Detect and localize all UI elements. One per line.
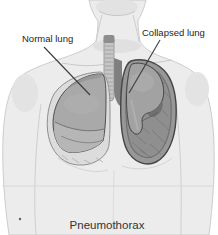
normal-lung-highlight	[64, 94, 100, 114]
deltoid-shading-left	[12, 74, 38, 112]
pneumothorax-figure: Normal lung Collapsed lung Pneumothorax	[0, 0, 218, 235]
collapsed-lung-highlight	[130, 72, 154, 92]
pneumothorax-illustration: Normal lung Collapsed lung Pneumothorax	[0, 0, 218, 235]
larynx	[104, 35, 115, 43]
collapsed-lung-label: Collapsed lung	[142, 27, 205, 38]
figure-caption: Pneumothorax	[70, 219, 145, 231]
neck-base-shadow	[93, 39, 141, 53]
speck-artifact	[19, 218, 21, 220]
deltoid-shading-right	[185, 72, 209, 106]
normal-lung-label: Normal lung	[22, 33, 73, 44]
